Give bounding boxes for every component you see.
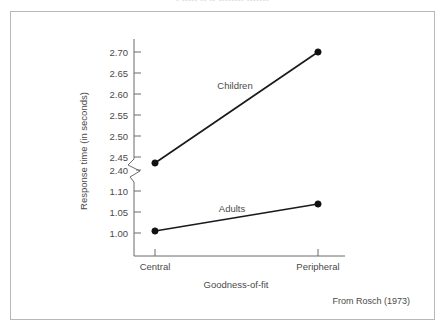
data-point-adults-central [152, 228, 158, 234]
data-point-children-peripheral [315, 49, 321, 55]
y-tick-label-1-00: 1.00 [110, 228, 129, 239]
data-point-adults-peripheral [315, 201, 321, 207]
cropped-caption-strip: • ••••• •• •• •••••••• ••••••• [0, 0, 445, 9]
y-tick-label-2-65: 2.65 [110, 68, 129, 79]
y-tick-label-2-55: 2.55 [110, 110, 129, 121]
x-tick-label-peripheral: Peripheral [296, 261, 339, 272]
y-tick-label-1-05: 1.05 [110, 207, 129, 218]
y-tick-label-2-50: 2.50 [110, 131, 129, 142]
y-tick-label-2-60: 2.60 [110, 89, 129, 100]
y-tick-label-1-10: 1.10 [110, 186, 129, 197]
series-label-adults: Adults [219, 203, 246, 214]
data-point-children-central [152, 160, 158, 166]
cropped-caption-text: • ••••• •• •• •••••••• ••••••• [176, 0, 269, 4]
y-tick-label-2-40: 2.40 [110, 165, 129, 176]
y-axis-title: Response time (in seconds) [78, 92, 89, 210]
y-tick-label-2-45: 2.45 [110, 152, 129, 163]
series-label-children: Children [217, 80, 252, 91]
figure-root: • ••••• •• •• •••••••• ••••••• 2.70 2.65… [0, 0, 445, 329]
x-tick-label-central: Central [140, 261, 171, 272]
series-line-children [155, 52, 318, 163]
x-axis-title: Goodness-of-fit [204, 279, 269, 290]
y-tick-label-2-70: 2.70 [110, 47, 129, 58]
line-chart: 2.70 2.65 2.60 2.55 2.50 2.45 2.40 1.10 … [10, 11, 435, 320]
source-credit: From Rosch (1973) [332, 296, 410, 306]
